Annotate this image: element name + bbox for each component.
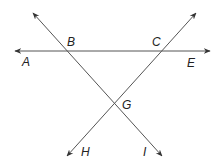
point-label-g: G — [122, 98, 131, 112]
point-label-b: B — [67, 35, 75, 49]
point-label-h: H — [81, 145, 90, 159]
point-label-i: I — [143, 145, 147, 159]
line-hc — [67, 13, 196, 156]
point-label-a: A — [21, 55, 30, 69]
point-label-c: C — [152, 35, 161, 49]
geometry-diagram: A B C E G H I — [0, 0, 223, 166]
line-bi — [33, 13, 162, 156]
point-label-e: E — [187, 56, 196, 70]
